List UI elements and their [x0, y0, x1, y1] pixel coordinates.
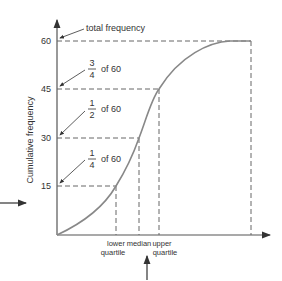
cumulative-frequency-diagram: 60 45 30 15 Cumulative frequency total f…	[0, 0, 282, 281]
fraction-1-2-num: 1	[89, 98, 94, 108]
y-tick-15: 15	[41, 181, 51, 191]
fraction-3-4-den: 4	[89, 70, 94, 80]
median-label: median	[127, 239, 152, 248]
upper-quartile-label-1: upper	[152, 239, 172, 248]
y-tick-45: 45	[41, 84, 51, 94]
three-quarter-label: of 60	[101, 64, 121, 74]
y-axis-label: Cumulative frequency	[25, 96, 35, 184]
y-tick-60: 60	[41, 36, 51, 46]
quarter-label: of 60	[101, 154, 121, 164]
lower-quartile-label-2: quartile	[101, 248, 126, 257]
fraction-1-2-den: 2	[89, 110, 94, 120]
upper-quartile-label-2: quartile	[153, 248, 178, 257]
fraction-3-4-num: 3	[89, 58, 94, 68]
fraction-1-4-num: 1	[89, 148, 94, 158]
fraction-1-4-den: 4	[89, 160, 94, 170]
lower-quartile-label-1: lower	[107, 239, 125, 248]
cumulative-frequency-curve	[57, 41, 251, 235]
guide-lines	[57, 41, 251, 235]
y-tick-30: 30	[41, 133, 51, 143]
half-label: of 60	[101, 104, 121, 114]
total-frequency-label: total frequency	[86, 23, 146, 33]
